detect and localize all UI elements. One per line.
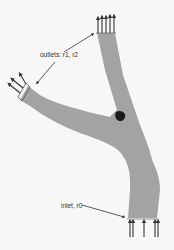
vessel-diagram: outlets: r1, r2 inlet, r0 bbox=[0, 0, 174, 250]
outlets-label: outlets: r1, r2 bbox=[40, 51, 78, 58]
inlet-label: inlet, r0 bbox=[61, 202, 82, 209]
inlet-pointer bbox=[82, 205, 124, 217]
outlet-arrows-top bbox=[98, 16, 114, 33]
outlet-arrows-left bbox=[9, 74, 26, 93]
vessel-body bbox=[20, 33, 160, 218]
outlets-pointer bbox=[37, 34, 93, 83]
inlet-arrows-bottom bbox=[130, 221, 158, 237]
